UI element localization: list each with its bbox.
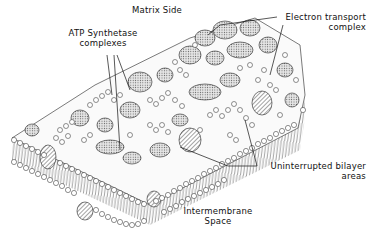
membrane-diagram: Matrix Side ATP Synthetase complexes Ele… xyxy=(0,0,369,236)
label-bilayer: Uninterrupted bilayer areas xyxy=(256,161,366,181)
label-intermembrane-line1: Intermembrane xyxy=(178,206,258,216)
membrane-illustration xyxy=(0,0,369,236)
label-electron-transport: Electron transport complex xyxy=(270,12,366,32)
label-atp-synthetase-line1: ATP Synthetase xyxy=(58,28,148,38)
label-intermembrane-space: Intermembrane Space xyxy=(178,206,258,226)
label-intermembrane-line2: Space xyxy=(178,216,258,226)
label-atp-synthetase: ATP Synthetase complexes xyxy=(58,28,148,48)
label-electron-transport-line1: Electron transport xyxy=(270,12,366,22)
label-matrix-side: Matrix Side xyxy=(132,5,182,15)
label-bilayer-line1: Uninterrupted bilayer xyxy=(256,161,366,171)
label-atp-synthetase-line2: complexes xyxy=(58,38,148,48)
label-bilayer-line2: areas xyxy=(256,171,366,181)
label-electron-transport-line2: complex xyxy=(270,22,366,32)
